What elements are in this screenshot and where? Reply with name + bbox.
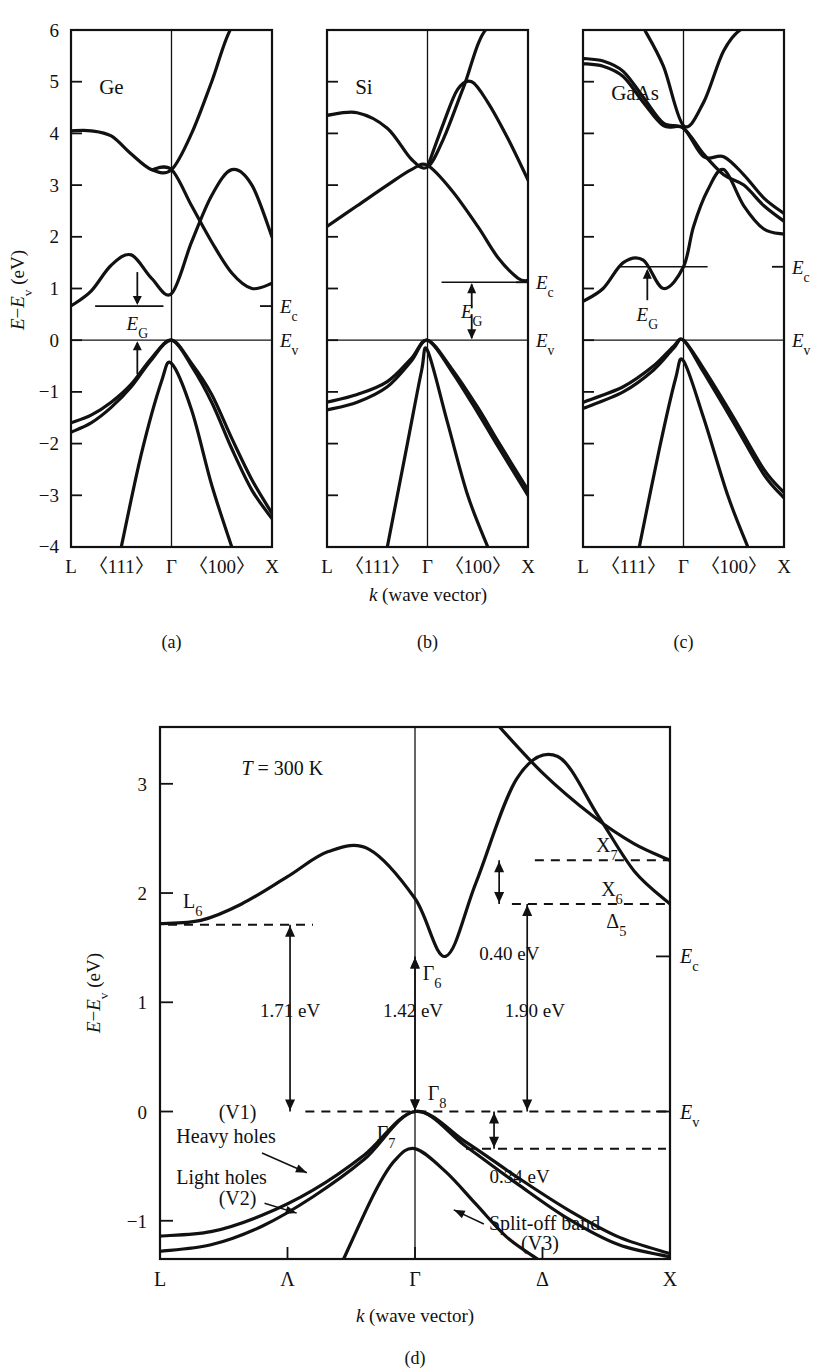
y-tick-label: 0 xyxy=(138,1102,148,1123)
x-tick-label: 〈111〉 xyxy=(601,556,666,577)
ev-label: Ev xyxy=(791,330,811,358)
x-tick-label: Λ xyxy=(280,1268,295,1290)
label-gamma8: Γ8 xyxy=(428,1082,447,1111)
panel-d-gaas-detail: 3210−1E−Ev (eV)1.71 eV1.42 eV1.90 eV0.40… xyxy=(83,675,700,1369)
energy-label-1-90: 1.90 eV xyxy=(505,1000,565,1021)
band-curve-split-off xyxy=(387,348,488,547)
eg-label: EG xyxy=(636,304,659,332)
label-v2: (V2) xyxy=(219,1187,257,1210)
ev-label: Ev xyxy=(535,330,555,358)
material-label: GaAs xyxy=(611,81,659,105)
x-tick-label: 〈100〉 xyxy=(701,556,768,577)
panel-a-ge: 543210−1−2−36−4GeEcEvEGL〈111〉Γ〈100〉X(a) xyxy=(39,20,299,653)
panel-c-gaas: GaAsEcEvEGL〈111〉Γ〈100〉X(c) xyxy=(577,26,810,653)
arrow-0-40-head-bottom xyxy=(494,892,504,903)
band-curve-split-off xyxy=(121,362,232,547)
top-yaxis-label: E−Ev (eV) xyxy=(7,250,35,331)
x-tick-label: Γ xyxy=(166,556,177,577)
ec-label: Ec xyxy=(679,945,699,974)
y-tick-label: −3 xyxy=(39,485,59,506)
energy-label-0-34: 0.34 eV xyxy=(489,1166,549,1187)
band-curve-conduction-cross xyxy=(151,167,272,289)
x-tick-label: L xyxy=(65,556,77,577)
label-X7: X7 xyxy=(596,834,618,863)
ec-label: Ec xyxy=(791,257,810,285)
x-tick-label: Γ xyxy=(409,1268,421,1290)
arrow-1-90-head-top xyxy=(522,905,532,916)
temperature-label: T = 300 K xyxy=(241,757,323,779)
band-curve-split-off xyxy=(639,359,748,547)
panel-caption: (b) xyxy=(417,632,438,653)
x-tick-label: X xyxy=(521,556,535,577)
figure-svg: E−Ev (eV)543210−1−2−36−4GeEcEvEGL〈111〉Γ〈… xyxy=(0,0,825,1370)
x-tick-label: Γ xyxy=(422,556,433,577)
y-tick-label: −1 xyxy=(127,1211,147,1232)
bottom-xaxis-label: k (wave vector) xyxy=(356,1305,474,1327)
band-structure-figure: E−Ev (eV)543210−1−2−36−4GeEcEvEGL〈111〉Γ〈… xyxy=(0,0,825,1370)
y-tick-label: 0 xyxy=(50,330,60,351)
eg-label: EG xyxy=(126,313,149,341)
arrow-1-71-head-bottom xyxy=(285,1100,295,1111)
x-tick-label: 〈100〉 xyxy=(445,556,512,577)
arrow-0-40-head-top xyxy=(494,861,504,872)
gamma6-marker-arrow xyxy=(411,957,420,968)
y-tick-label: 4 xyxy=(50,123,60,144)
eg-arrow-lower-head xyxy=(133,341,142,350)
panel-b-si: SiEcEvEGL〈111〉Γ〈100〉X(b) xyxy=(321,23,554,653)
arrow-0-34-head-bottom xyxy=(489,1137,499,1148)
y-tick-label: 3 xyxy=(138,774,148,795)
ec-label: Ec xyxy=(279,296,298,324)
band-curve-upper-conduction-X7 xyxy=(451,675,670,861)
y-tick-label: 5 xyxy=(50,71,60,92)
gamma8-marker-arrow xyxy=(411,1100,420,1111)
energy-label-1-42: 1.42 eV xyxy=(383,1000,443,1021)
energy-label-0-40: 0.40 eV xyxy=(479,943,539,964)
arrow-1-90-head-bottom xyxy=(522,1100,532,1111)
x-tick-label: 〈111〉 xyxy=(345,556,410,577)
label-gamma6: Γ6 xyxy=(423,962,442,991)
band-curve-conduction-gamma xyxy=(643,26,784,127)
split-off-leader-head xyxy=(454,1210,466,1218)
x-tick-label: L xyxy=(577,556,589,577)
material-label: Ge xyxy=(99,75,124,99)
label-light-holes: Light holes xyxy=(176,1166,267,1189)
x-tick-label: Γ xyxy=(678,556,689,577)
label-delta5: Δ5 xyxy=(606,910,626,939)
y-tick-label: 1 xyxy=(138,992,148,1013)
label-v3: (V3) xyxy=(521,1232,559,1255)
ev-label: Ev xyxy=(279,330,299,358)
arrow-0-34-head-top xyxy=(489,1113,499,1124)
material-label: Si xyxy=(355,75,373,99)
y-tick-label: −2 xyxy=(39,433,59,454)
ec-label: Ec xyxy=(535,272,554,300)
bottom-yaxis-label: E−Ev (eV) xyxy=(83,953,111,1034)
heavy-holes-leader-head xyxy=(295,1164,307,1172)
band-curve-conduction-mid xyxy=(428,81,529,180)
x-tick-label: L xyxy=(321,556,333,577)
top-xaxis-label: k (wave vector) xyxy=(369,584,487,606)
label-L6: L6 xyxy=(183,890,202,919)
y-tick-label: −1 xyxy=(39,381,59,402)
energy-label-1-71: 1.71 eV xyxy=(260,1000,320,1021)
x-tick-label: 〈100〉 xyxy=(189,556,256,577)
label-X6: X6 xyxy=(601,878,623,907)
y-tick-label: 2 xyxy=(50,226,60,247)
x-tick-label: L xyxy=(154,1268,166,1290)
y-tick-label: 2 xyxy=(138,883,148,904)
ev-label: Ev xyxy=(679,1101,700,1130)
eg-arrow-upper-head xyxy=(467,283,476,293)
arrow-1-71-head-top xyxy=(285,926,295,937)
x-tick-label: X xyxy=(777,556,791,577)
panel-caption: (a) xyxy=(162,632,182,653)
x-tick-label: X xyxy=(265,556,279,577)
y-tick-label: −4 xyxy=(39,536,60,557)
y-tick-label: 1 xyxy=(50,278,60,299)
y-tick-label: 3 xyxy=(50,175,60,196)
label-v1: (V1) xyxy=(219,1101,257,1124)
label-heavy-holes: Heavy holes xyxy=(176,1125,276,1148)
band-curve-split-off-V3 xyxy=(344,1148,538,1259)
panel-caption: (c) xyxy=(674,632,694,653)
eg-arrow-lower-head xyxy=(467,329,476,339)
y-tick-label: 6 xyxy=(50,20,60,41)
x-tick-label: 〈111〉 xyxy=(89,556,154,577)
